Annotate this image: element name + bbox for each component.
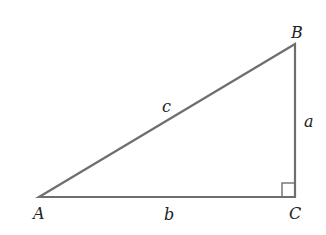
triangle-shape bbox=[39, 44, 295, 197]
side-label-c: c bbox=[162, 97, 171, 116]
right-triangle-diagram: A B C c a b bbox=[0, 0, 326, 235]
vertex-label-b: B bbox=[290, 23, 303, 42]
side-label-a: a bbox=[304, 112, 314, 131]
vertex-label-c: C bbox=[289, 204, 301, 223]
vertex-label-a: A bbox=[31, 204, 45, 223]
right-angle-marker bbox=[282, 183, 295, 197]
side-label-b: b bbox=[164, 205, 174, 224]
